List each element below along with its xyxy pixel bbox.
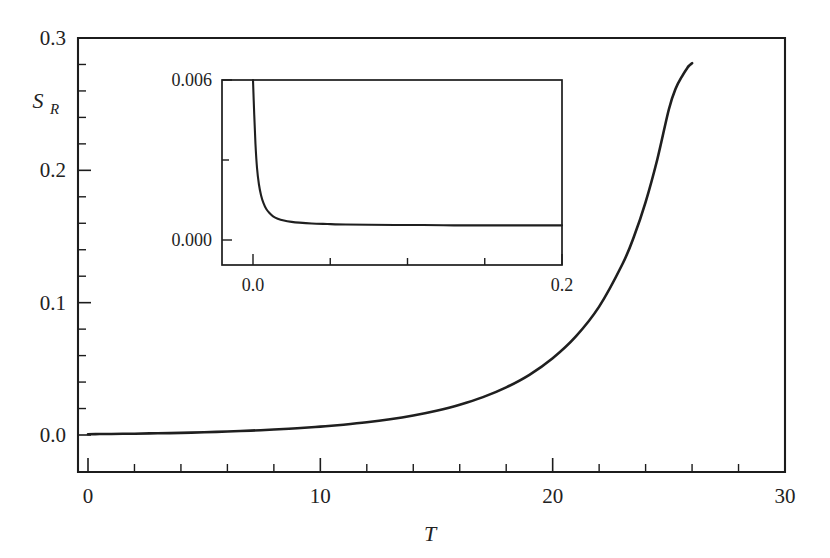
y-tick-label: 0.0	[40, 423, 66, 447]
x-tick-label: 10	[310, 484, 331, 508]
y-axis-label: S R	[33, 88, 60, 117]
y-axis-tick-labels: 0.00.10.20.3	[40, 26, 66, 447]
y-axis-major-ticks	[78, 38, 91, 435]
inset-y-tick-label: 0.006	[172, 70, 213, 90]
y-tick-label: 0.1	[40, 291, 66, 315]
inset-axes-frame	[222, 80, 562, 265]
inset-x-axis-tick-labels: 0.00.2	[242, 275, 574, 295]
y-axis-label-base: S	[33, 88, 44, 113]
inset-x-tick-label: 0.2	[551, 275, 574, 295]
x-axis-label: T	[424, 521, 438, 546]
figure-container: 0.00.10.20.3 0102030 S R T 0.0000.006 0.…	[0, 0, 830, 558]
inset-chart: 0.0000.006 0.00.2	[172, 70, 574, 295]
inset-y-tick-label: 0.000	[172, 230, 213, 250]
x-axis-minor-ticks	[134, 464, 738, 472]
x-axis-tick-labels: 0102030	[83, 484, 796, 508]
inset-x-tick-label: 0.0	[242, 275, 265, 295]
x-tick-label: 20	[542, 484, 563, 508]
y-tick-label: 0.3	[40, 26, 66, 50]
y-tick-label: 0.2	[40, 158, 66, 182]
x-tick-label: 30	[775, 484, 796, 508]
x-tick-label: 0	[83, 484, 94, 508]
x-axis-major-ticks	[88, 458, 785, 472]
inset-y-axis-tick-labels: 0.0000.006	[172, 70, 213, 250]
chart-canvas: 0.00.10.20.3 0102030 S R T 0.0000.006 0.…	[0, 0, 830, 558]
y-axis-label-subscript: R	[49, 101, 59, 117]
y-axis-minor-ticks	[78, 64, 86, 408]
